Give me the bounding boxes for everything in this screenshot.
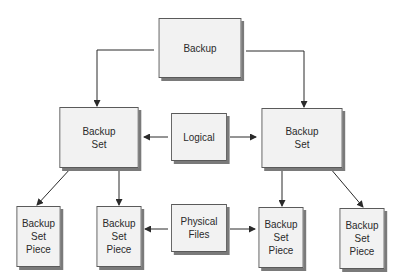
node-backup-set-piece-4: Backup Set Piece bbox=[340, 208, 385, 269]
node-label: Logical bbox=[183, 131, 214, 144]
edge-backup-to-set-right bbox=[246, 51, 304, 107]
node-logical: Logical bbox=[171, 113, 227, 161]
node-backup-set-right: Backup Set bbox=[262, 108, 343, 168]
node-label: Backup Set Piece bbox=[102, 217, 135, 256]
edge-set-left-to-piece-1 bbox=[37, 168, 71, 205]
node-backup-set-piece-2: Backup Set Piece bbox=[97, 206, 142, 267]
node-label: Backup Set Piece bbox=[264, 218, 297, 257]
node-backup: Backup bbox=[159, 18, 242, 78]
node-label: Backup bbox=[183, 42, 216, 55]
backup-structure-diagram: Backup Backup Set Logical Backup Set Bac… bbox=[0, 0, 401, 277]
node-label: Physical Files bbox=[181, 215, 218, 241]
node-physical-files: Physical Files bbox=[171, 204, 227, 252]
node-backup-set-piece-3: Backup Set Piece bbox=[259, 207, 304, 268]
edge-backup-to-set-left bbox=[97, 50, 154, 106]
node-backup-set-piece-1: Backup Set Piece bbox=[16, 206, 60, 267]
node-label: Backup Set Piece bbox=[22, 217, 55, 256]
node-label: Backup Set bbox=[82, 125, 115, 151]
node-label: Backup Set bbox=[285, 125, 318, 151]
node-label: Backup Set Piece bbox=[345, 219, 378, 258]
node-backup-set-left: Backup Set bbox=[59, 107, 138, 168]
edge-set-right-to-piece-4 bbox=[330, 168, 363, 207]
